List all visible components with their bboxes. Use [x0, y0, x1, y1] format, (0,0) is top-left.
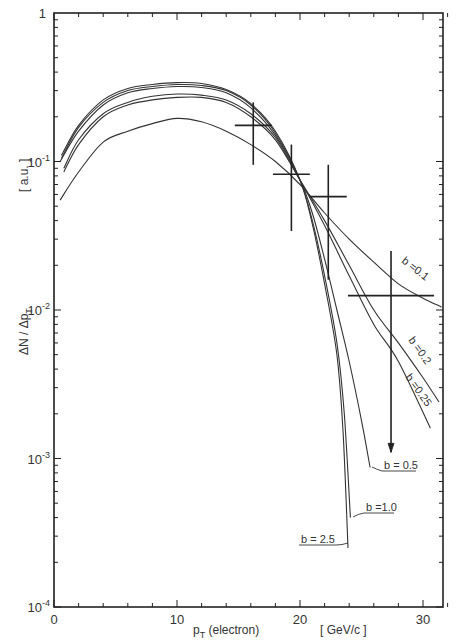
- y-tick-label: 1: [39, 6, 46, 21]
- curve-b02: [64, 97, 439, 402]
- x-tick-label: 0: [50, 612, 57, 627]
- x-tick-label: 20: [293, 612, 307, 627]
- axis-ticks: [54, 13, 448, 607]
- curve-label-b05: b = 0.5: [384, 459, 418, 471]
- x-axis-label: pT (electron): [193, 623, 259, 640]
- curve-b25: [61, 82, 348, 547]
- curve-label-b10: b =1.0: [366, 501, 397, 513]
- x-tick-label: 10: [170, 612, 184, 627]
- curve-b01: [60, 118, 441, 307]
- curve-label-b25-group: b = 2.5: [299, 533, 348, 545]
- x-tick-label: 30: [416, 612, 430, 627]
- upper-limit-arrow-icon: [388, 443, 394, 452]
- data-points: [235, 102, 434, 452]
- curve-b10: [61, 84, 350, 517]
- svg-text:[ a.u. ]: [ a.u. ]: [17, 159, 31, 192]
- model-curves: [60, 82, 441, 547]
- curve-label-b25: b = 2.5: [301, 533, 335, 545]
- y-tick-label: 10-3: [28, 450, 50, 467]
- data-point: [235, 102, 272, 164]
- curve-label-b05-group: b = 0.5: [372, 459, 418, 471]
- curve-label-b10-group: b =1.0: [353, 501, 397, 517]
- x-axis-unit: [ GeV/c ]: [320, 623, 367, 637]
- curve-b025: [64, 94, 431, 428]
- curve-label-b02: b =0.2: [406, 334, 434, 366]
- curve-label-b01: b =0.1: [400, 254, 432, 282]
- y-tick-label: 10-4: [28, 598, 50, 615]
- y-axis-unit: [ a.u. ]: [17, 159, 31, 192]
- chart: 0102030110-110-210-310-4 ΔN / ΔpT [ a.u.…: [0, 0, 458, 643]
